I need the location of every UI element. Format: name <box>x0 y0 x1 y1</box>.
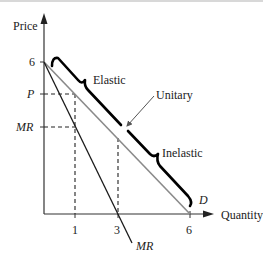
unitary-label: Unitary <box>156 89 193 101</box>
inelastic-label: Inelastic <box>162 147 203 159</box>
x-tick-label-3: 3 <box>114 224 120 236</box>
y-tick-label-mr: MR <box>16 121 33 133</box>
y-tick-label-6: 6 <box>29 56 35 68</box>
dashed-guides <box>44 94 118 214</box>
x-axis-label: Quantity <box>221 209 263 221</box>
elastic-bracket <box>52 58 121 125</box>
demand-label: D <box>199 194 208 206</box>
unitary-pointer-arrow <box>127 96 154 126</box>
elastic-label: Elastic <box>93 74 126 86</box>
mr-curve-label: MR <box>136 240 153 252</box>
y-tick-label-p: P <box>27 88 34 100</box>
inelastic-bracket <box>128 131 191 206</box>
y-axis <box>41 13 48 214</box>
elasticity-diagram: Price Quantity 6 P MR 1 3 6 Elastic Unit… <box>0 0 263 257</box>
x-tick-label-6: 6 <box>186 224 192 236</box>
x-tick-label-1: 1 <box>72 224 78 236</box>
y-axis-label: Price <box>13 20 38 32</box>
